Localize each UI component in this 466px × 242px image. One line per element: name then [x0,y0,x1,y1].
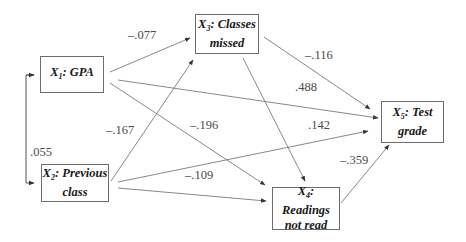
coef-x2-x5: .142 [308,118,330,133]
correlation-bracket [26,75,34,183]
node-x5: X5: Testgrade [381,101,444,143]
coef-x3-x5: –.116 [305,48,333,63]
arrow-x1-to-x3 [110,38,190,72]
arrow-x1-to-x5 [118,80,378,118]
arrow-x2-to-x3 [111,60,193,181]
node-x3: X3: Classesmissed [195,14,259,54]
node-x2: X2: Previousclass [41,164,109,202]
path-diagram: X1: GPAX2: PreviousclassX3: Classesmisse… [0,0,466,242]
correlation-coefficient: .055 [30,145,52,160]
node-label: X1: GPA [50,65,94,84]
node-x4: X4: Readingsnot read [272,187,340,230]
coef-x2-x4: –.109 [185,168,213,183]
node-label: X3: Classesmissed [198,17,256,51]
arrow-x3-to-x4 [243,58,305,181]
node-label: X2: Previousclass [43,166,108,200]
coef-x1-x3: –.077 [128,28,156,43]
coef-x1-x5: .488 [295,80,317,95]
node-label: X4: Readingsnot read [273,184,339,233]
node-x1: X1: GPA [40,56,104,93]
coef-x1-x4: –.196 [190,118,218,133]
arrow-x2-to-x5 [118,131,368,182]
node-label: X5: Testgrade [392,105,432,139]
coef-x2-x3: –.167 [106,123,134,138]
coef-x4-x5: –.359 [340,153,368,168]
arrow-x2-to-x4 [118,188,266,201]
